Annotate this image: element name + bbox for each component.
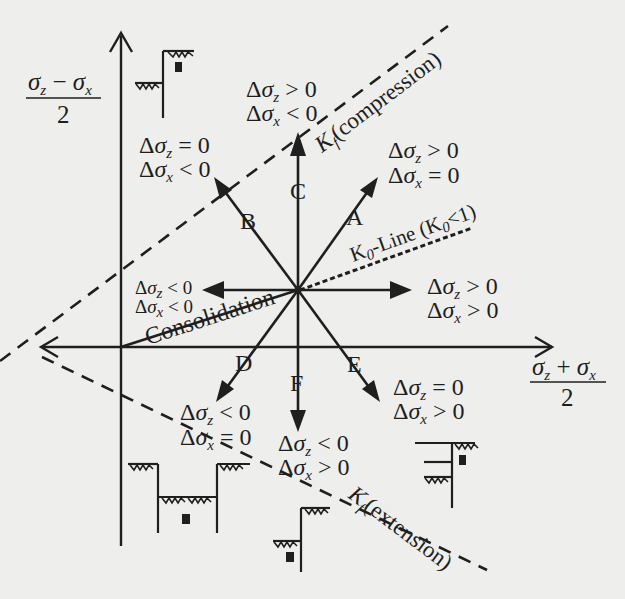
condition-c: Δσz > 0 Δσx < 0 — [246, 76, 318, 129]
svg-text:Kf(extension): Kf(extension) — [341, 480, 457, 577]
sketch-top-left — [135, 51, 194, 118]
y-axis-label: σz − σx 2 — [26, 68, 101, 128]
condition-b: Δσz = 0 Δσx < 0 — [139, 132, 211, 185]
path-a-arrow — [298, 177, 378, 290]
label-f: F — [290, 370, 303, 396]
sketch-right — [415, 443, 478, 508]
svg-text:Δσx < 0: Δσx < 0 — [246, 100, 318, 129]
sketch-bottom-left — [128, 464, 250, 533]
svg-text:Δσx > 0: Δσx > 0 — [393, 398, 465, 427]
svg-text:Δσx = 0: Δσx = 0 — [180, 424, 252, 453]
x-axis — [41, 337, 552, 357]
label-e: E — [347, 351, 362, 377]
sketch-bottom-right — [273, 508, 330, 572]
svg-text:σz − σx: σz − σx — [28, 68, 92, 98]
x-axis-label: σz + σx 2 — [530, 353, 606, 411]
svg-text:Δσx = 0: Δσx = 0 — [388, 162, 460, 191]
stress-path-diagram: σz − σx 2 σz + σx 2 — [0, 0, 625, 599]
y-axis — [110, 33, 132, 546]
condition-right: Δσz > 0 Δσx > 0 — [427, 273, 499, 326]
path-c-arrow — [290, 132, 306, 290]
kf-extension-label: Kf(extension) — [341, 480, 457, 577]
svg-text:Δσx > 0: Δσx > 0 — [427, 297, 499, 326]
svg-text:2: 2 — [561, 384, 574, 411]
svg-text:Δσx > 0: Δσx > 0 — [278, 454, 350, 483]
label-d: D — [235, 350, 252, 376]
condition-a: Δσz > 0 Δσx = 0 — [388, 137, 460, 191]
svg-text:σz + σx: σz + σx — [532, 353, 596, 383]
path-f-arrow — [290, 290, 306, 432]
svg-text:2: 2 — [57, 101, 70, 128]
svg-text:Δσx < 0: Δσx < 0 — [139, 156, 211, 185]
condition-f: Δσz < 0 Δσx > 0 — [278, 430, 350, 483]
center-point — [295, 287, 302, 294]
label-c: C — [290, 178, 306, 204]
label-a: A — [346, 204, 364, 230]
label-b: B — [240, 208, 256, 234]
condition-d: Δσz < 0 Δσx = 0 — [180, 399, 252, 453]
condition-e: Δσz = 0 Δσx > 0 — [393, 374, 465, 427]
